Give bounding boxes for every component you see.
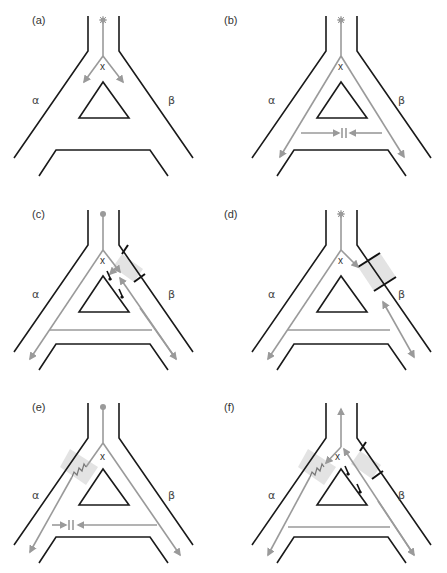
node-x-label: x	[338, 61, 343, 72]
branch-beta-label: β	[168, 288, 175, 301]
panel-label: (d)	[224, 208, 237, 220]
valve-icon	[345, 466, 362, 494]
branch-alpha-label: α	[32, 94, 39, 107]
flow-arrow-to-block	[341, 250, 358, 267]
branch-alpha-label: α	[32, 489, 39, 502]
branch-beta-label: β	[398, 288, 405, 301]
branch-alpha-label: α	[268, 489, 275, 502]
panel-f: (f) x α β	[224, 401, 431, 563]
branch-beta-label: β	[168, 489, 175, 502]
flow-arrow-into-valve	[110, 268, 116, 274]
branch-beta-label: β	[398, 489, 405, 502]
node-x-label: x	[335, 451, 340, 462]
panel-b: (b) x α β	[224, 14, 431, 176]
panel-e: (e) x α β	[14, 401, 193, 563]
node-x-label: x	[338, 255, 343, 266]
panel-label: (e)	[32, 401, 45, 413]
panel-label: (a)	[32, 14, 45, 26]
flow-arrow-beta-down	[140, 308, 176, 359]
flow-arrow-alpha	[268, 250, 341, 359]
resistive-zone	[298, 449, 336, 485]
flow-arrow-beta-down	[378, 501, 414, 555]
barrier-icon	[342, 128, 346, 138]
panel-d: (d) x α β	[224, 208, 431, 370]
branch-alpha-label: α	[268, 288, 275, 301]
flow-arrow-alpha	[30, 250, 103, 359]
flow-arrow-right	[103, 56, 123, 82]
node-x-label: x	[100, 61, 105, 72]
branch-alpha-label: α	[32, 288, 39, 301]
node-x-label: x	[100, 451, 105, 462]
node-x-label: x	[100, 255, 105, 266]
branch-beta-label: β	[398, 94, 405, 107]
panel-c: (c) x α β	[14, 208, 193, 370]
panel-label: (f)	[224, 401, 234, 413]
panel-label: (c)	[32, 208, 45, 220]
branch-beta-label: β	[168, 94, 175, 107]
barrier-icon	[69, 520, 73, 530]
resistive-zone	[60, 449, 98, 485]
figure-canvas: (a) x α β (b) x α β (c)	[0, 0, 447, 573]
flow-arrow-alpha	[280, 56, 341, 157]
panel-label: (b)	[224, 14, 237, 26]
panel-a: (a) x α β	[14, 14, 193, 176]
full-block	[358, 253, 396, 291]
branch-alpha-label: α	[268, 94, 275, 107]
